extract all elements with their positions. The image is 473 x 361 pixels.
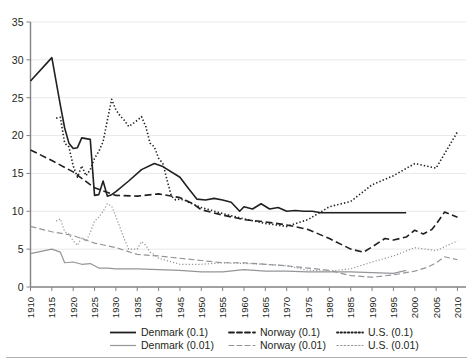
x-tick-label: 2005: [431, 297, 442, 318]
x-tick-label: 1970: [281, 297, 292, 318]
y-tick-label: 15: [12, 167, 24, 179]
x-tick-label: 1935: [132, 297, 143, 318]
legend-label[interactable]: U.S. (0.1): [368, 326, 413, 338]
y-axis-ticks: 05101520253035: [12, 16, 31, 293]
x-tick-label: 1950: [196, 297, 207, 318]
x-tick-label: 2010: [452, 297, 463, 318]
x-tick-label: 1945: [175, 297, 186, 318]
y-tick-label: 10: [12, 205, 24, 217]
y-tick-label: 0: [18, 281, 24, 293]
x-tick-label: 1995: [388, 297, 399, 318]
x-tick-label: 1910: [25, 297, 36, 318]
y-tick-label: 20: [12, 129, 24, 141]
series-line-u-s-0-1: [56, 99, 457, 226]
data-series-group: [31, 58, 458, 278]
y-tick-label: 5: [18, 243, 24, 255]
series-line-norway-0-1: [31, 150, 458, 252]
x-tick-label: 2000: [409, 297, 420, 318]
x-tick-label: 1930: [110, 297, 121, 318]
legend-label[interactable]: Norway (0.01): [260, 339, 326, 351]
legend-label[interactable]: Denmark (0.1): [141, 326, 208, 338]
legend-label[interactable]: Denmark (0.01): [141, 339, 214, 351]
x-tick-label: 1955: [217, 297, 228, 318]
x-tick-label: 1980: [324, 297, 335, 318]
gridlines: [31, 22, 467, 249]
legend-label[interactable]: U.S. (0.01): [368, 339, 419, 351]
x-axis-ticks: 1910191519201925193019351940194519501955…: [25, 287, 463, 318]
x-tick-label: 1975: [303, 297, 314, 318]
x-tick-label: 1915: [46, 297, 57, 318]
legend-label[interactable]: Norway (0.1): [260, 326, 320, 338]
x-tick-label: 1920: [68, 297, 79, 318]
y-tick-label: 30: [12, 54, 24, 66]
series-line-u-s-0-01: [56, 204, 457, 271]
x-tick-label: 1990: [367, 297, 378, 318]
x-tick-label: 1940: [153, 297, 164, 318]
x-tick-label: 1965: [260, 297, 271, 318]
chart-container: 05101520253035 1910191519201925193019351…: [0, 0, 473, 361]
x-tick-label: 1925: [89, 297, 100, 318]
series-line-denmark-0-01: [31, 249, 407, 273]
y-tick-label: 25: [12, 92, 24, 104]
x-tick-label: 1960: [239, 297, 250, 318]
x-tick-label: 1985: [345, 297, 356, 318]
line-chart: 05101520253035 1910191519201925193019351…: [0, 0, 473, 361]
chart-legend: Denmark (0.1)Norway (0.1)U.S. (0.1)Denma…: [110, 326, 419, 351]
y-tick-label: 35: [12, 16, 24, 28]
